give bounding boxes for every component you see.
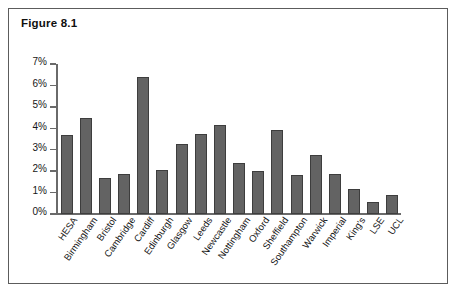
bar-rect <box>176 144 188 214</box>
y-axis-tick: 3% <box>50 149 56 151</box>
bar[interactable] <box>176 64 188 214</box>
bar[interactable] <box>118 64 130 214</box>
bar[interactable] <box>271 64 283 214</box>
bar[interactable] <box>386 64 398 214</box>
bar-rect <box>118 174 130 214</box>
figure-panel: Figure 8.1 0%1%2%3%4%5%6%7% HESABirmingh… <box>8 8 448 284</box>
x-axis-label: UCL <box>387 216 407 238</box>
y-axis-tick: 6% <box>50 85 56 87</box>
bar-rect <box>61 135 73 214</box>
x-axis-label: King's <box>345 216 369 243</box>
y-axis-tick: 1% <box>50 192 56 194</box>
y-axis-tick: 7% <box>50 63 56 65</box>
bar[interactable] <box>329 64 341 214</box>
y-axis-tick: 5% <box>50 106 56 108</box>
x-axis-labels: HESABirminghamBristolCambridgeCardiffEdi… <box>57 216 402 294</box>
y-axis-tick-mark <box>50 170 56 172</box>
y-axis-tick-label: 1% <box>33 185 47 196</box>
bar-rect <box>291 175 303 214</box>
y-axis-tick-mark <box>50 63 56 65</box>
bar[interactable] <box>156 64 168 214</box>
bar-rect <box>310 155 322 214</box>
bar-rect <box>271 130 283 214</box>
y-axis-tick-label: 5% <box>33 99 47 110</box>
bar[interactable] <box>137 64 149 214</box>
y-axis-tick-mark <box>50 149 56 151</box>
bar-rect <box>348 189 360 214</box>
bar-rect <box>195 134 207 214</box>
bar[interactable] <box>233 64 245 214</box>
bar[interactable] <box>80 64 92 214</box>
bar[interactable] <box>310 64 322 214</box>
y-axis-tick: 4% <box>50 128 56 130</box>
bar[interactable] <box>367 64 379 214</box>
y-axis-tick-label: 0% <box>33 206 47 217</box>
y-axis-tick-label: 7% <box>33 56 47 67</box>
bar[interactable] <box>99 64 111 214</box>
bar[interactable] <box>195 64 207 214</box>
y-axis-tick-mark <box>50 128 56 130</box>
y-axis-tick: 0% <box>50 213 56 215</box>
y-axis-tick-mark <box>50 106 56 108</box>
bar-rect <box>99 178 111 214</box>
x-axis-label: LSE <box>369 216 388 237</box>
bar-rect <box>156 170 168 214</box>
y-axis-tick-mark <box>50 192 56 194</box>
bar-rect <box>233 163 245 214</box>
y-axis-tick-mark <box>50 213 56 215</box>
bar-series <box>57 64 402 214</box>
bar-rect <box>80 118 92 214</box>
y-axis-tick-label: 2% <box>33 163 47 174</box>
bar[interactable] <box>214 64 226 214</box>
y-axis-tick: 2% <box>50 170 56 172</box>
bar[interactable] <box>348 64 360 214</box>
y-axis-tick-label: 3% <box>33 142 47 153</box>
y-axis-tick-mark <box>50 85 56 87</box>
bar[interactable] <box>291 64 303 214</box>
bar[interactable] <box>61 64 73 214</box>
bar-chart: 0%1%2%3%4%5%6%7% HESABirminghamBristolCa… <box>9 9 449 285</box>
y-axis-tick-label: 4% <box>33 121 47 132</box>
bar-rect <box>367 202 379 214</box>
bar-rect <box>137 77 149 214</box>
bar-rect <box>252 171 264 214</box>
bar-rect <box>386 195 398 214</box>
bar-rect <box>214 125 226 214</box>
bar-rect <box>329 174 341 214</box>
bar[interactable] <box>252 64 264 214</box>
y-axis-tick-label: 6% <box>33 78 47 89</box>
